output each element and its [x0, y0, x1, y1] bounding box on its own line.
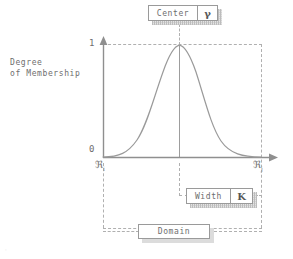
y-tick-one: 1	[89, 38, 94, 48]
x-axis-right-subscript: j	[261, 165, 263, 172]
center-callout-symbol: γ	[197, 6, 217, 20]
x-axis-left-subscript: i	[103, 165, 105, 172]
y-tick-zero: 0	[89, 144, 94, 154]
y-axis-label: Degree of Membership	[10, 57, 80, 79]
width-callout[interactable]: Width K	[186, 188, 253, 204]
width-callout-symbol: K	[230, 189, 252, 203]
x-axis-right-bound: ℜj	[253, 159, 263, 172]
x-axis-left-bound: ℜi	[95, 159, 105, 172]
center-callout[interactable]: Center γ	[148, 5, 218, 21]
width-callout-label: Width	[187, 189, 230, 203]
y-axis-label-line2: of Membership	[10, 69, 80, 78]
domain-callout[interactable]: Domain	[138, 224, 210, 239]
figure-canvas: · Degree of Membership 1 0 ℜi ℜj Ce	[0, 0, 293, 259]
y-axis-label-line1: Degree	[10, 58, 43, 67]
center-callout-label: Center	[149, 6, 197, 20]
domain-callout-label: Domain	[139, 225, 209, 238]
x-axis-left-symbol: ℜ	[95, 159, 103, 170]
axes-and-curve	[0, 0, 293, 259]
x-axis-right-symbol: ℜ	[253, 159, 261, 170]
